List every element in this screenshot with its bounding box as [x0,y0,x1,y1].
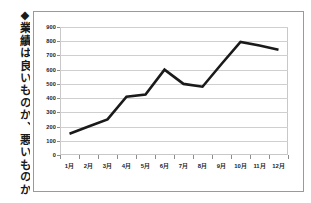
x-axis: 1月2月3月4月5月6月7月8月9月10月11月12月 [60,155,288,185]
x-axis-tick [117,155,118,159]
y-axis-label: 500 [46,81,56,87]
x-axis-tick [79,155,80,159]
y-axis-label: 0 [53,152,56,158]
series-polyline [70,42,279,134]
x-axis-label: 7月 [179,161,188,170]
x-axis-label: 5月 [141,161,150,170]
y-axis-label: 800 [46,38,56,44]
chart-page: ◆業績は良いものか、悪いものか 010020030040050060070080… [0,0,311,203]
y-axis-label: 400 [46,95,56,101]
chart-frame: 0100200300400500600700800900 1月2月3月4月5月6… [33,11,304,192]
x-axis-tick [155,155,156,159]
x-axis-label: 1月 [65,161,74,170]
x-axis-tick [288,155,289,159]
x-axis-label: 3月 [103,161,112,170]
x-axis-tick [212,155,213,159]
x-axis-label: 10月 [234,161,247,170]
x-axis-label: 8月 [198,161,207,170]
x-axis-label: 6月 [160,161,169,170]
x-axis-tick [269,155,270,159]
vertical-caption-text: ◆業績は良いものか、悪いものか [6,8,30,196]
y-axis-label: 200 [46,124,56,130]
plot-area: 0100200300400500600700800900 [60,27,288,155]
x-axis-tick [174,155,175,159]
y-axis-label: 100 [46,138,56,144]
x-axis-label: 9月 [217,161,226,170]
x-axis-tick [231,155,232,159]
x-axis-tick [136,155,137,159]
x-axis-label: 11月 [253,161,265,170]
chart-inner: 0100200300400500600700800900 1月2月3月4月5月6… [34,12,303,191]
x-axis-tick [60,155,61,159]
x-axis-tick [250,155,251,159]
series-line-chart [60,27,288,155]
y-axis-label: 600 [46,67,56,73]
x-axis-tick [193,155,194,159]
y-axis-label: 300 [46,109,56,115]
y-axis-label: 700 [46,52,56,58]
x-axis-label: 12月 [272,161,285,170]
y-axis-label: 900 [46,24,56,30]
x-axis-tick [98,155,99,159]
x-axis-label: 2月 [84,161,93,170]
x-axis-label: 4月 [122,161,131,170]
